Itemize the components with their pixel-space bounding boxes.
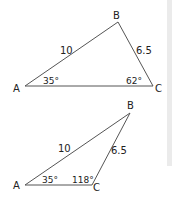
side-bc-label: 6.5 xyxy=(111,145,127,156)
side-ab-label: 10 xyxy=(58,143,71,154)
vertex-c-label: C xyxy=(93,182,100,193)
triangle-2: A B C 10 6.5 35° 118° xyxy=(13,100,134,193)
vertex-b-label: B xyxy=(113,10,120,21)
side-bc-label: 6.5 xyxy=(136,45,152,56)
vertex-a-label: A xyxy=(13,180,20,191)
angle-c-label: 118° xyxy=(72,175,94,185)
angle-c-label: 62° xyxy=(126,76,142,86)
angle-a-label: 35° xyxy=(42,175,58,185)
triangle-diagrams: A B C 10 6.5 35° 62° A B C 10 6.5 35° 11… xyxy=(0,0,172,203)
triangle-1: A B C 10 6.5 35° 62° xyxy=(13,10,162,94)
side-ab-label: 10 xyxy=(60,45,73,56)
vertex-c-label: C xyxy=(155,83,162,94)
vertex-a-label: A xyxy=(13,83,20,94)
angle-a-label: 35° xyxy=(43,76,59,86)
vertex-b-label: B xyxy=(127,100,134,111)
